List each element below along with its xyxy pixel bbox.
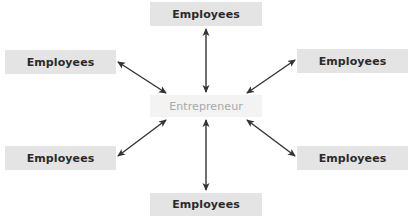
employees-box-lower-left: Employees [5,146,116,170]
arrow-center-lower-left [118,120,166,156]
arrow-center-lower-right [247,120,295,156]
employees-box-lower-right: Employees [297,146,408,170]
employees-box-upper-right: Employees [297,49,408,73]
arrow-center-upper-left [118,62,166,93]
employees-box-bottom: Employees [150,193,262,216]
employees-label-upper-right: Employees [319,55,387,68]
employees-label-top: Employees [172,8,240,21]
employees-label-lower-right: Employees [319,152,387,165]
employees-label-upper-left: Employees [27,56,95,69]
arrow-center-upper-right [247,60,295,93]
employees-label-lower-left: Employees [27,152,95,165]
entrepreneur-label: Entrepreneur [169,100,243,113]
employees-label-bottom: Employees [172,198,240,211]
employees-box-upper-left: Employees [5,50,116,74]
entrepreneur-box: Entrepreneur [150,95,262,117]
employees-box-top: Employees [150,2,262,26]
